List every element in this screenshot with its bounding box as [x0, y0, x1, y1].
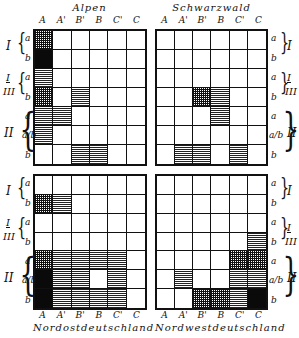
grid-cell-empty	[108, 214, 126, 233]
grid-cell-empty	[35, 145, 53, 164]
row-label: b	[271, 150, 277, 160]
grid-cell-empty	[211, 69, 229, 88]
row-label: b	[25, 237, 31, 247]
grid-cell-cross	[193, 88, 211, 107]
grid-cell-empty	[157, 176, 175, 195]
row-label: a	[25, 72, 30, 82]
grid-cell-empty	[127, 107, 145, 126]
row-label: a	[25, 178, 30, 188]
column-header: C	[249, 15, 268, 25]
grid-cell-empty	[211, 270, 229, 289]
column-headers-top-right: AA'B'BC'C	[155, 15, 268, 25]
grid-cell-horiz	[211, 88, 229, 107]
group-label-i-iii-bottom: III	[3, 86, 15, 97]
grid-cell-empty	[127, 251, 145, 270]
grid-cell-empty	[193, 50, 211, 69]
column-header: A	[155, 15, 174, 25]
panel-title-schwarzwald: Schwarzwald	[155, 2, 268, 13]
grid-cell-empty	[230, 233, 248, 252]
grid-cell-empty	[35, 214, 53, 233]
column-headers-bottom-right: AA'B'BC'C	[155, 310, 268, 320]
grid-cell-empty	[248, 50, 266, 69]
grid-cell-empty	[72, 126, 90, 145]
grid-cell-empty	[175, 251, 193, 270]
grid-cell-horiz	[72, 88, 90, 107]
column-header: B	[211, 310, 230, 320]
row-label: b	[25, 198, 31, 208]
grid-cell-horiz	[53, 270, 71, 289]
grid-cell-empty	[108, 195, 126, 214]
grid-cell-empty	[230, 107, 248, 126]
grid-cell-empty	[230, 195, 248, 214]
grid-cell-empty	[248, 31, 266, 50]
grid-cell-empty	[193, 176, 211, 195]
group-label-i-iii-top: I	[6, 72, 10, 83]
grid-cell-horiz	[35, 107, 53, 126]
group-label-ii: II	[4, 126, 13, 140]
grid-cell-empty	[35, 233, 53, 252]
grid-cell-horiz	[248, 233, 266, 252]
row-label: a	[271, 217, 276, 227]
grid-cell-empty	[211, 195, 229, 214]
grid-cell-empty	[108, 233, 126, 252]
column-header: C'	[108, 310, 127, 320]
grid-cell-empty	[175, 289, 193, 308]
grid-cell-empty	[157, 107, 175, 126]
group-label-i-iii-top: I	[6, 217, 10, 228]
grid-cell-empty	[175, 88, 193, 107]
grid-cell-black	[248, 289, 266, 308]
grid-cell-empty	[230, 126, 248, 145]
column-header: C	[127, 310, 146, 320]
grid-cell-empty	[175, 233, 193, 252]
column-header: C'	[108, 15, 127, 25]
grid-cell-empty	[90, 88, 108, 107]
grid-cell-empty	[127, 88, 145, 107]
column-header: C	[127, 15, 146, 25]
row-label: a/b	[22, 130, 36, 140]
grid-alpen	[33, 29, 147, 166]
grid-cell-empty	[248, 69, 266, 88]
grid-cell-empty	[90, 31, 108, 50]
row-label: a	[271, 178, 276, 188]
grid-cell-empty	[127, 145, 145, 164]
grid-cell-empty	[72, 50, 90, 69]
grid-cell-horiz	[248, 270, 266, 289]
grid-cell-empty	[157, 31, 175, 50]
grid-cell-horiz	[72, 145, 90, 164]
grid-cell-empty	[193, 214, 211, 233]
grid-cell-horiz	[175, 145, 193, 164]
row-label: a/b	[269, 275, 283, 285]
row-label: a	[271, 33, 276, 43]
group-label-i: I	[287, 184, 292, 198]
row-label: b	[271, 198, 277, 208]
group-label-i: I	[6, 184, 11, 198]
grid-cell-empty	[127, 69, 145, 88]
grid-cell-horiz	[53, 289, 71, 308]
grid-cell-empty	[72, 176, 90, 195]
grid-cell-horiz	[35, 69, 53, 88]
grid-cell-cross	[211, 289, 229, 308]
grid-cell-empty	[108, 145, 126, 164]
grid-cell-empty	[127, 270, 145, 289]
grid-cell-empty	[72, 31, 90, 50]
grid-cell-empty	[72, 69, 90, 88]
grid-cell-empty	[230, 88, 248, 107]
grid-cell-empty	[53, 88, 71, 107]
row-label: b	[25, 295, 31, 305]
column-header: A	[33, 15, 52, 25]
grid-cell-empty	[157, 195, 175, 214]
grid-cell-horiz	[72, 270, 90, 289]
grid-cell-empty	[211, 31, 229, 50]
grid-cell-empty	[157, 50, 175, 69]
column-header: B'	[71, 310, 90, 320]
grid-cell-cross	[193, 289, 211, 308]
column-header: C'	[230, 15, 249, 25]
grid-cell-empty	[108, 31, 126, 50]
grid-cell-empty	[90, 195, 108, 214]
grid-cell-empty	[230, 50, 248, 69]
grid-cell-empty	[248, 145, 266, 164]
panel-title-nordwestdeutschland: Nordwestdeutschland	[155, 322, 268, 333]
grid-cell-cross	[248, 251, 266, 270]
column-header: B'	[71, 15, 90, 25]
group-label-i: I	[6, 39, 11, 53]
